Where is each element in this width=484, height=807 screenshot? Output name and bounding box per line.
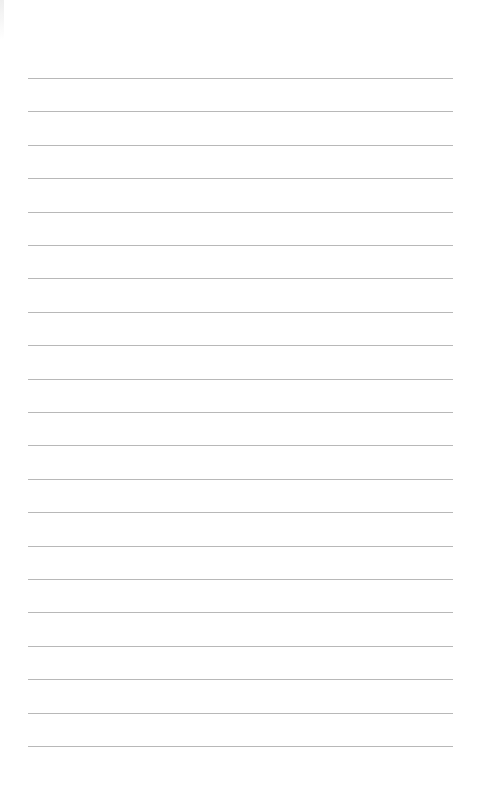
ruled-line <box>28 145 453 146</box>
ruled-line <box>28 445 453 446</box>
ruled-line <box>28 312 453 313</box>
ruled-line <box>28 412 453 413</box>
ruled-line <box>28 178 453 179</box>
ruled-line <box>28 546 453 547</box>
ruled-line <box>28 479 453 480</box>
ruled-line <box>28 245 453 246</box>
ruled-line <box>28 78 453 79</box>
ruled-line <box>28 612 453 613</box>
ruled-line <box>28 111 453 112</box>
ruled-line <box>28 379 453 380</box>
ruled-line <box>28 713 453 714</box>
ruled-line <box>28 679 453 680</box>
page-edge-shadow <box>0 0 4 40</box>
ruled-line <box>28 646 453 647</box>
ruled-line <box>28 278 453 279</box>
ruled-line <box>28 512 453 513</box>
ruled-line <box>28 345 453 346</box>
ruled-line <box>28 212 453 213</box>
ruled-line <box>28 746 453 747</box>
ruled-line <box>28 579 453 580</box>
